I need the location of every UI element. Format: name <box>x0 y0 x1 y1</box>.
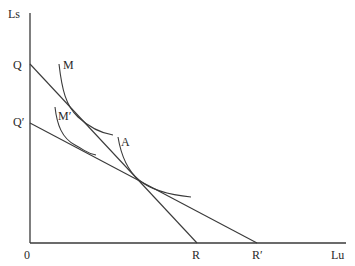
diagram: Ls Q Q′ M M′ A 0 R R′ Lu <box>0 0 355 266</box>
label-M: M <box>63 59 74 71</box>
x-axis-label: Lu <box>331 249 344 261</box>
label-R-prime: R′ <box>252 249 263 261</box>
label-M-prime: M′ <box>58 110 71 122</box>
label-Q-prime: Q′ <box>13 116 24 128</box>
y-axis-label: Ls <box>8 8 20 20</box>
label-A: A <box>121 136 130 148</box>
origin-label: 0 <box>24 249 30 261</box>
budget-line-QR <box>30 64 197 243</box>
diagram-canvas <box>0 0 355 266</box>
label-Q: Q <box>13 59 22 71</box>
label-R: R <box>192 249 200 261</box>
